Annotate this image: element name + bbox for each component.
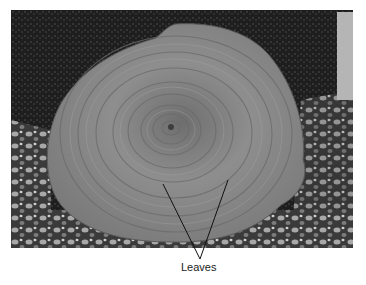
leader-line-right xyxy=(200,180,228,259)
leaves-label: Leaves xyxy=(181,261,216,273)
leader-lines xyxy=(0,0,366,285)
leader-line-left xyxy=(163,184,200,259)
